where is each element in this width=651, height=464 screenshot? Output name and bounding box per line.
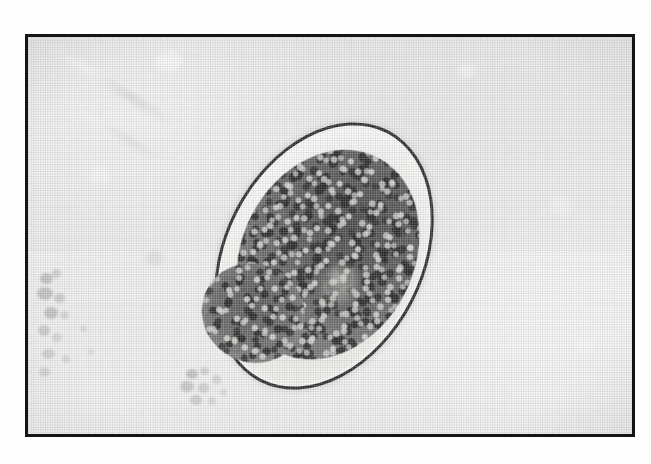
figure-caption	[0, 0, 1, 1]
page-canvas: · · ·	[0, 0, 651, 464]
figure-frame	[25, 34, 635, 437]
background-streak-1	[43, 40, 175, 127]
background-streak-2	[58, 97, 165, 163]
page-bleed-marks: · · ·	[0, 440, 651, 462]
background-blob-6	[576, 337, 595, 352]
helminth-ovum	[171, 85, 477, 427]
background-blob-5	[146, 251, 163, 265]
bleed-mark-3: ·	[548, 445, 552, 457]
microscope-field	[28, 37, 632, 434]
bleed-mark-2: ·	[492, 443, 496, 455]
background-blob-3	[458, 63, 476, 78]
egg-shell	[171, 85, 477, 427]
background-blob-2	[90, 167, 110, 184]
debris-cluster-left	[36, 267, 118, 387]
bleed-mark-1: ·	[432, 444, 436, 456]
background-blob-1	[156, 51, 182, 71]
debris-cluster-center	[176, 365, 246, 417]
background-blob-4	[550, 197, 572, 215]
